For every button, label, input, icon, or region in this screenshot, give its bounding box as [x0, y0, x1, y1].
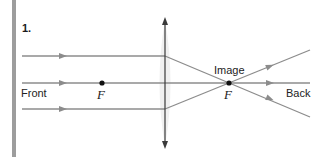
focal-label-front: F [97, 87, 105, 103]
front-label: Front [21, 87, 47, 99]
focal-label-back: F [224, 87, 232, 103]
lens-top-arrow-icon [162, 17, 168, 25]
back-label: Back [286, 87, 310, 99]
arrow-icon [59, 106, 67, 112]
arrow-icon [266, 80, 274, 86]
lens-bottom-arrow-icon [162, 141, 168, 149]
arrow-icon [265, 62, 275, 71]
lens-ray-diagram [0, 0, 328, 157]
refracted-rays [165, 50, 310, 117]
focal-point-front [99, 80, 104, 85]
arrow-icon [59, 53, 67, 59]
ray-bottom-refracted [165, 50, 310, 109]
focal-point-back [226, 80, 231, 85]
arrow-icon [59, 80, 67, 86]
incoming-rays [22, 56, 165, 109]
image-label: Image [214, 64, 245, 76]
